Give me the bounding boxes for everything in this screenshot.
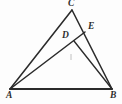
figure-canvas: [0, 0, 122, 104]
geometry-figure: C E D A B: [0, 0, 122, 104]
vertex-label-C: C: [68, 0, 74, 9]
segment-DB: [74, 41, 112, 89]
vertex-label-B: B: [110, 91, 116, 101]
vertex-label-D: D: [62, 31, 69, 41]
vertex-label-A: A: [6, 91, 12, 101]
vertex-label-E: E: [88, 22, 94, 32]
